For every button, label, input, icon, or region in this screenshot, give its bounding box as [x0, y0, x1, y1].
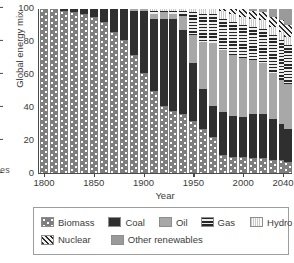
bar-1970 — [209, 9, 217, 173]
segment-gas-2030 — [269, 35, 277, 73]
legend-item-gas[interactable]: Gas — [201, 217, 235, 228]
segment-biomass-1810 — [50, 9, 58, 173]
y-tick-mark — [0, 39, 3, 40]
stacked-bars-group — [39, 9, 292, 173]
bar-1950 — [189, 9, 197, 173]
segment-biomass-2020 — [259, 158, 267, 173]
legend-row-1: BiomassCoalOilGasHydro — [41, 213, 281, 231]
legend-item-coal[interactable]: Coal — [108, 217, 145, 228]
segment-coal-1990 — [229, 116, 237, 157]
bar-1990 — [229, 9, 237, 173]
segment-coal-1840 — [80, 9, 88, 14]
segment-biomass-1860 — [100, 22, 108, 173]
segment-coal-1950 — [189, 63, 197, 120]
segment-gas-1930 — [169, 11, 177, 14]
segment-coal-1830 — [70, 9, 78, 12]
bar-1900 — [140, 9, 148, 173]
segment-coal-2010 — [249, 114, 257, 158]
segment-hydro-2010 — [249, 19, 257, 27]
x-tick-1900: 1900 — [144, 173, 145, 187]
bar-1940 — [179, 9, 187, 173]
segment-coal-2045 — [284, 129, 292, 162]
y-tick-label: 20 — [23, 134, 34, 145]
segment-coal-1880 — [120, 9, 128, 40]
x-tick-2040: 2040 — [283, 173, 284, 187]
segment-biomass-1930 — [169, 111, 177, 173]
segment-nuclear-1980 — [219, 9, 227, 11]
bar-1980 — [219, 9, 227, 173]
segment-biomass-2045 — [284, 162, 292, 173]
y-tick-label: 0 — [29, 167, 34, 178]
segment-hydro-1940 — [179, 9, 187, 11]
legend-item-oil[interactable]: Oil — [159, 217, 188, 228]
y-tick-label: 40 — [23, 101, 34, 112]
x-tick-2000: 2000 — [243, 173, 244, 187]
segment-biomass-2000 — [239, 157, 247, 173]
segment-biomass-1830 — [70, 12, 78, 173]
segment-biomass-1990 — [229, 157, 237, 173]
legend-item-other-renewables[interactable]: Other renewables — [111, 234, 203, 245]
segment-coal-1960 — [199, 89, 207, 128]
segment-gas-1910 — [150, 11, 158, 14]
segment-oil-1990 — [229, 55, 237, 116]
segment-oil-1910 — [150, 14, 158, 19]
bar-1880 — [120, 9, 128, 173]
y-tick-mark — [0, 171, 3, 172]
x-tick-1800: 1800 — [44, 173, 45, 187]
y-tick-mark — [0, 6, 3, 7]
segment-coal-1820 — [60, 9, 68, 11]
bar-1890 — [130, 9, 138, 173]
x-tick-mark — [144, 173, 145, 177]
segment-coal-1850 — [90, 9, 98, 17]
segment-nuclear-2000 — [239, 9, 247, 17]
segment-biomass-2010 — [249, 158, 257, 173]
x-tick-mark — [243, 173, 244, 177]
segment-coal-1870 — [110, 9, 118, 32]
hydro-pattern-swatch — [250, 217, 263, 227]
segment-biomass-1980 — [219, 155, 227, 173]
bar-1860 — [100, 9, 108, 173]
segment-hydro-1980 — [219, 11, 227, 19]
y-tick-label: 80 — [23, 35, 34, 46]
segment-oil-1890 — [130, 9, 138, 11]
legend-label-oil: Oil — [176, 217, 188, 228]
legend-item-biomass[interactable]: Biomass — [41, 217, 94, 228]
segment-hydro-1950 — [189, 9, 197, 12]
segment-nuclear-1990 — [229, 9, 237, 14]
segment-gas-1950 — [189, 12, 197, 35]
bar-2045 — [284, 9, 292, 173]
segment-gas-1960 — [199, 14, 207, 42]
segment-oil-2020 — [259, 63, 267, 114]
segment-gas-1970 — [209, 14, 217, 44]
legend-label-coal: Coal — [125, 217, 145, 228]
segment-hydro-1960 — [199, 9, 207, 14]
segment-oil-1930 — [169, 14, 177, 19]
bar-1910 — [150, 9, 158, 173]
segment-oil-2010 — [249, 60, 257, 114]
bar-1840 — [80, 9, 88, 173]
segment-gas-2045 — [284, 45, 292, 84]
x-tick-label: 1950 — [183, 177, 204, 188]
nuclear-pattern-swatch — [41, 235, 54, 245]
legend-item-nuclear[interactable]: Nuclear — [41, 234, 91, 245]
other-renewables-pattern-swatch — [111, 235, 124, 245]
y-tick-40: 40 — [0, 106, 39, 107]
segment-coal-1900 — [140, 11, 148, 73]
bar-1820 — [60, 9, 68, 173]
y-tick-label: 60 — [23, 68, 34, 79]
energy-mix-figure: es Global energy mix 0204060801001800185… — [0, 0, 294, 263]
segment-coal-2030 — [269, 119, 277, 160]
segment-coal-1910 — [150, 19, 158, 91]
segment-hydro-1920 — [160, 9, 168, 11]
legend-item-hydro[interactable]: Hydro — [250, 217, 292, 228]
segment-hydro-1990 — [229, 14, 237, 22]
x-tick-1950: 1950 — [193, 173, 194, 187]
y-tick-100: 100 — [0, 7, 39, 8]
segment-oil-1900 — [140, 9, 148, 11]
segment-oil-1980 — [219, 50, 227, 112]
segment-biomass-1820 — [60, 11, 68, 173]
y-tick-80: 80 — [0, 40, 39, 41]
segment-other-renewables-2020 — [259, 9, 267, 12]
coal-pattern-swatch — [108, 217, 121, 227]
bar-1960 — [199, 9, 207, 173]
